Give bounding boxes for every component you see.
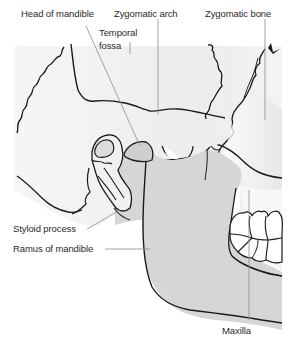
label-ramus-of-mandible: Ramus of mandible <box>13 243 93 254</box>
label-maxilla: Maxilla <box>222 325 251 336</box>
label-zygomatic-arch: Zygomatic arch <box>114 8 178 19</box>
label-styloid-process: Styloid process <box>13 223 76 234</box>
anatomy-illustration <box>0 0 291 342</box>
label-temporal-fossa-line2: fossa <box>99 40 121 51</box>
label-zygomatic-bone: Zygomatic bone <box>205 8 271 19</box>
label-temporal-fossa-line1: Temporal <box>99 27 137 38</box>
label-head-of-mandible: Head of mandible <box>21 8 94 19</box>
